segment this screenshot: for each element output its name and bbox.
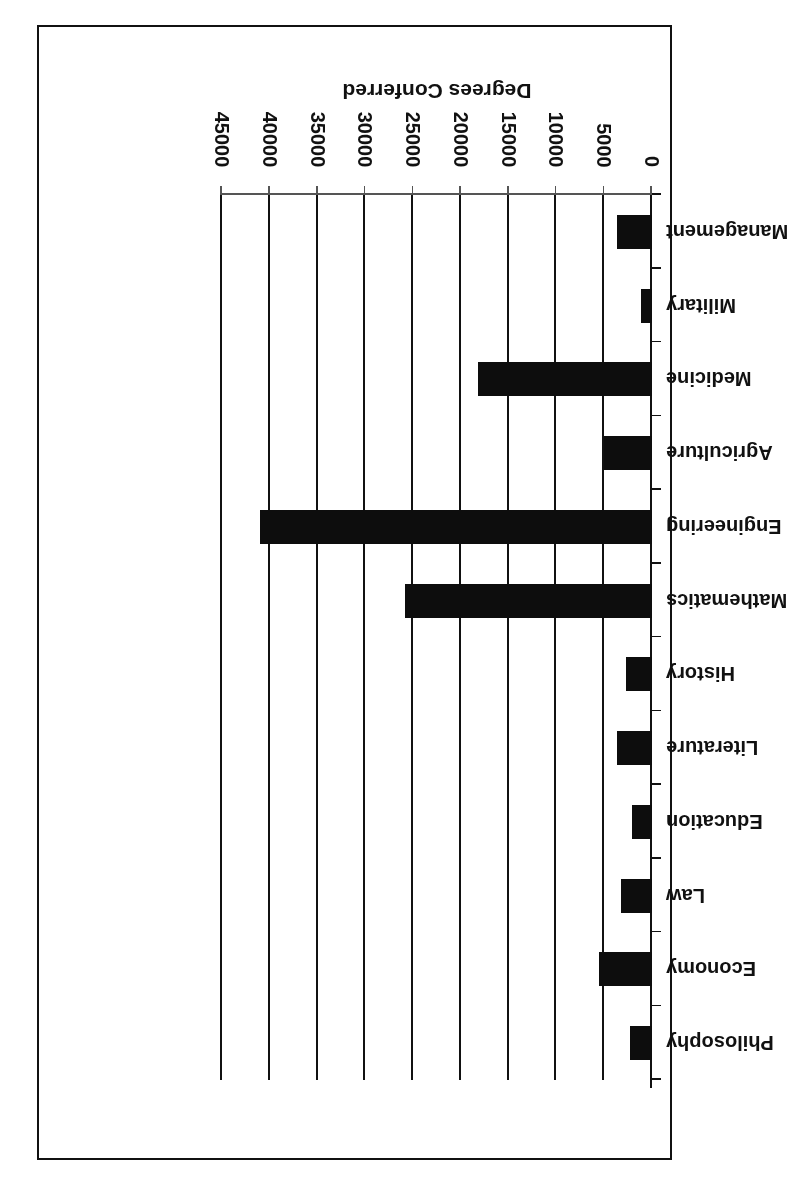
value-tick-label: 25000 <box>402 112 425 168</box>
category-label: Management <box>666 220 788 243</box>
value-tick-label: 20000 <box>449 112 472 168</box>
bar-row: Agriculture <box>222 416 652 490</box>
category-tick <box>652 931 661 933</box>
bar <box>478 362 652 396</box>
plot-area: PhilosophyEconomyLawEducationLiteratureH… <box>222 195 652 1080</box>
bar <box>621 879 652 913</box>
bar <box>642 289 653 323</box>
bar <box>599 952 652 986</box>
value-tick <box>221 186 223 195</box>
category-tick <box>652 562 661 564</box>
category-label: Mathematics <box>666 589 787 612</box>
bar <box>626 657 652 691</box>
value-tick-label: 0 <box>641 156 664 167</box>
value-axis <box>222 193 652 195</box>
category-tick <box>652 489 661 491</box>
chart-canvas: PhilosophyEconomyLawEducationLiteratureH… <box>39 27 670 1158</box>
bar-row: Military <box>222 269 652 343</box>
bar-row: Education <box>222 785 652 859</box>
bar-row: Medicine <box>222 343 652 417</box>
value-tick <box>459 186 461 195</box>
bar <box>632 805 652 839</box>
category-tick <box>652 636 661 638</box>
value-tick <box>268 186 270 195</box>
category-label: Literature <box>666 737 758 760</box>
bar <box>617 215 652 249</box>
category-label: Engineering <box>666 515 782 538</box>
bar-row: Literature <box>222 711 652 785</box>
value-tick <box>603 186 605 195</box>
value-tick-label: 45000 <box>211 112 234 168</box>
value-tick <box>412 186 414 195</box>
category-tick <box>652 194 661 196</box>
value-tick-label: 5000 <box>593 123 616 168</box>
value-tick-label: 30000 <box>354 112 377 168</box>
category-tick <box>652 857 661 859</box>
bar <box>405 584 652 618</box>
category-label: History <box>666 663 735 686</box>
value-tick-label: 15000 <box>497 112 520 168</box>
axis-title: Degrees Conferred <box>222 79 652 103</box>
bar-row: Management <box>222 195 652 269</box>
category-tick <box>652 341 661 343</box>
value-tick <box>555 186 557 195</box>
chart-frame: PhilosophyEconomyLawEducationLiteratureH… <box>37 25 672 1160</box>
category-label: Agriculture <box>666 442 773 465</box>
bar <box>617 731 652 765</box>
bar <box>260 510 652 544</box>
value-tick-label: 40000 <box>258 112 281 168</box>
bar <box>604 436 652 470</box>
category-tick <box>652 1005 661 1007</box>
category-label: Education <box>666 810 763 833</box>
category-label: Economy <box>666 958 756 981</box>
category-tick <box>652 1079 661 1081</box>
bar-row: History <box>222 638 652 712</box>
bar-row: Mathematics <box>222 564 652 638</box>
category-tick <box>652 710 661 712</box>
category-tick <box>652 415 661 417</box>
category-label: Medicine <box>666 368 752 391</box>
category-tick <box>652 784 661 786</box>
bar-row: Engineering <box>222 490 652 564</box>
category-label: Military <box>666 294 736 317</box>
category-tick <box>652 267 661 269</box>
bar-row: Economy <box>222 933 652 1007</box>
category-label: Philosophy <box>666 1032 774 1055</box>
bar-row: Philosophy <box>222 1006 652 1080</box>
value-tick <box>507 186 509 195</box>
value-tick <box>364 186 366 195</box>
value-tick-label: 35000 <box>306 112 329 168</box>
category-label: Law <box>666 884 705 907</box>
bar-row: Law <box>222 859 652 933</box>
bar <box>630 1026 652 1060</box>
value-tick-label: 10000 <box>545 112 568 168</box>
value-tick <box>316 186 318 195</box>
value-tick <box>651 186 653 195</box>
